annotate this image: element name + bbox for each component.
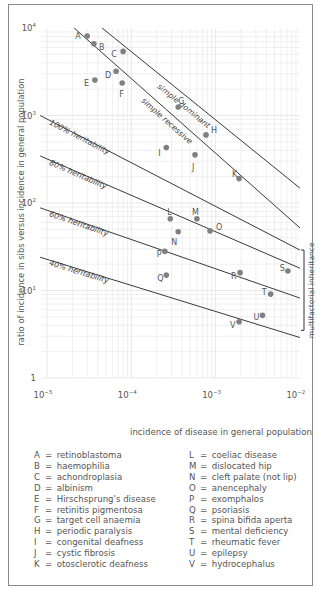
data-point	[92, 77, 98, 83]
point-label: J	[191, 163, 194, 172]
legend-name: hydrocephalus	[209, 559, 275, 569]
point-label: P	[157, 250, 162, 259]
point-label: Q	[157, 274, 163, 283]
legend-key: E	[34, 494, 45, 505]
legend-name: target cell anaemia	[54, 515, 140, 525]
legend-name: epilepsy	[209, 548, 248, 558]
legend-key: M	[189, 461, 200, 472]
legend-equals: =	[45, 505, 54, 516]
point-label: D	[105, 71, 111, 80]
data-point	[285, 268, 291, 274]
legend-entry: S= mental deficiency	[189, 526, 297, 537]
legend-entry: C= achondroplasia	[34, 472, 156, 483]
point-label: M	[192, 208, 199, 217]
point-label: I	[158, 149, 160, 158]
legend-entry: T= rheumatic fever	[189, 537, 297, 548]
legend-key: C	[34, 472, 45, 483]
point-label: B	[99, 43, 105, 52]
bracket	[301, 250, 304, 330]
data-point	[194, 216, 200, 222]
point-label: C	[111, 50, 117, 59]
legend-key: S	[189, 526, 200, 537]
legend-name: cystic fibrosis	[54, 548, 115, 558]
legend-entry: O= anencephaly	[189, 483, 297, 494]
data-point	[268, 291, 274, 297]
data-point	[91, 41, 97, 47]
legend-key: O	[189, 483, 200, 494]
legend-entry: J= cystic fibrosis	[34, 548, 156, 559]
x-tick-label: 10−5	[34, 389, 53, 400]
legend-equals: =	[200, 548, 209, 559]
point-label: O	[216, 223, 222, 232]
legend-equals: =	[45, 515, 54, 526]
data-point	[167, 216, 173, 222]
point-label: H	[211, 126, 217, 135]
legend-name: achondroplasia	[54, 472, 122, 482]
data-point	[84, 33, 90, 39]
data-point	[113, 68, 119, 74]
legend-entry: D= albinism	[34, 483, 156, 494]
point-label: S	[280, 264, 285, 273]
data-point	[203, 132, 209, 138]
legend-name: exomphalos	[209, 494, 264, 504]
legend-entry: R= spina bifida aperta	[189, 515, 297, 526]
y-tick-label: 104	[22, 22, 37, 33]
legend-equals: =	[200, 537, 209, 548]
legend-key: A	[34, 450, 45, 461]
legend-key: U	[189, 548, 200, 559]
legend-key: J	[34, 548, 45, 559]
legend-key: H	[34, 526, 45, 537]
point-label: E	[84, 79, 89, 88]
point-label: G	[178, 97, 184, 106]
data-point	[236, 319, 242, 325]
data-point	[192, 152, 198, 158]
data-points: ABCDEFGHIJKLMNOPQRSTUV	[75, 32, 290, 330]
legend-name: spina bifida aperta	[209, 515, 292, 525]
legend-equals: =	[200, 515, 209, 526]
legend-entry: P= exomphalos	[189, 494, 297, 505]
data-point	[163, 272, 169, 278]
legend-name: periodic paralysis	[54, 526, 132, 536]
legend-equals: =	[200, 559, 209, 570]
legend-name: dislocated hip	[209, 461, 272, 471]
y-axis-label: ratio of incidence in sibs versus incide…	[16, 78, 26, 345]
point-label: N	[171, 238, 177, 247]
point-label: U	[253, 313, 259, 322]
point-label: K	[232, 170, 238, 179]
point-label: F	[119, 90, 124, 99]
legend-name: haemophilia	[54, 461, 110, 471]
legend-key: B	[34, 461, 45, 472]
legend-equals: =	[200, 483, 209, 494]
line-label: 60% heritability	[48, 209, 110, 238]
legend-key: G	[34, 515, 45, 526]
legend-equals: =	[45, 472, 54, 483]
legend-entry: K= otosclerotic deafness	[34, 559, 156, 570]
point-label: A	[75, 32, 81, 41]
data-point	[260, 313, 266, 319]
data-point	[207, 228, 213, 234]
legend-equals: =	[200, 505, 209, 516]
legend-equals: =	[45, 526, 54, 537]
annotations: multifactorial inheritance	[301, 242, 316, 338]
legend-name: albinism	[54, 483, 93, 493]
legend-equals: =	[200, 472, 209, 483]
legend-key: P	[189, 494, 200, 505]
legend-key: Q	[189, 505, 200, 516]
line-label: 80% heritability	[48, 158, 109, 191]
legend-entry: A= retinoblastoma	[34, 450, 156, 461]
legend-name: coeliac disease	[209, 450, 277, 460]
data-point	[237, 270, 243, 276]
legend-key: R	[189, 515, 200, 526]
legend-left: A= retinoblastomaB= haemophiliaC= achond…	[34, 450, 156, 570]
legend-equals: =	[45, 559, 54, 570]
legend-entry: F= retinitis pigmentosa	[34, 505, 156, 516]
point-label: T	[261, 288, 267, 297]
data-point	[119, 80, 125, 86]
legend-name: retinoblastoma	[54, 450, 122, 460]
legend-entry: L= coeliac disease	[189, 450, 297, 461]
x-tick-label: 10−3	[202, 389, 221, 400]
legend-name: otosclerotic deafness	[54, 559, 148, 569]
legend-right: L= coeliac diseaseM= dislocated hipN= cl…	[189, 450, 297, 570]
legend-equals: =	[45, 494, 54, 505]
point-label: R	[231, 272, 237, 281]
